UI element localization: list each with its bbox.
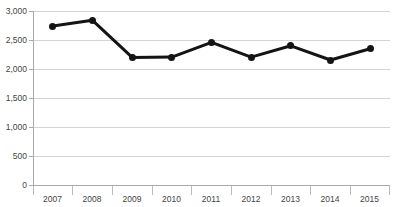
data-point-2010 (168, 54, 175, 61)
data-point-2011 (208, 39, 215, 46)
gridline-500 (33, 156, 390, 157)
gridline-2000 (33, 69, 390, 70)
line-chart: 3,000 2,500 2,000 1,500 1,000 500 0 2007… (0, 0, 397, 207)
x-axis-separator (389, 186, 390, 195)
gridline-1500 (33, 98, 390, 99)
x-axis-label-2009: 2009 (112, 194, 152, 204)
y-tick-mark-500 (29, 156, 33, 157)
gridline-1000 (33, 127, 390, 128)
y-axis-label-0: 0 (0, 181, 27, 190)
y-axis-label-2000: 2,000 (0, 65, 27, 74)
x-axis-label-2010: 2010 (152, 194, 191, 204)
y-axis-label-3000: 3,000 (0, 7, 27, 16)
y-tick-mark-1500 (29, 98, 33, 99)
x-axis-label-2014: 2014 (310, 194, 350, 204)
y-axis-label-2500: 2,500 (0, 36, 27, 45)
y-tick-mark-1000 (29, 127, 33, 128)
y-tick-mark-2500 (29, 40, 33, 41)
y-tick-mark-2000 (29, 69, 33, 70)
data-point-2007 (49, 23, 56, 30)
x-axis-label-2008: 2008 (72, 194, 112, 204)
y-tick-mark-3000 (29, 11, 33, 12)
y-axis-label-500: 500 (0, 152, 27, 161)
x-axis-line (33, 185, 390, 186)
x-axis-label-2011: 2011 (191, 194, 231, 204)
gridline-3000 (33, 11, 390, 12)
data-point-2015 (367, 45, 374, 52)
y-axis-line (33, 11, 34, 186)
x-axis-label-2013: 2013 (271, 194, 310, 204)
y-axis-label-1000: 1,000 (0, 123, 27, 132)
data-point-2009 (129, 54, 136, 61)
y-axis-label-1500: 1,500 (0, 94, 27, 103)
x-axis-label-2012: 2012 (231, 194, 271, 204)
data-point-2012 (248, 54, 255, 61)
x-axis-label-2015: 2015 (350, 194, 389, 204)
data-point-2014 (327, 57, 334, 64)
plot-area (33, 11, 390, 185)
data-point-2008 (89, 17, 96, 24)
x-axis-label-2007: 2007 (33, 194, 72, 204)
